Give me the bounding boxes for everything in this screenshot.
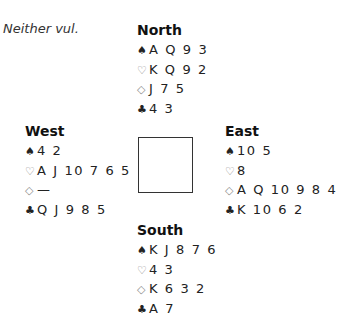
east-hearts-cards: 8 bbox=[237, 163, 247, 178]
north-clubs-cards: 4 3 bbox=[149, 101, 174, 116]
east-clubs: ♣K 10 6 2 bbox=[225, 200, 337, 220]
diamond-icon: ◇ bbox=[225, 181, 237, 201]
diamond-icon: ◇ bbox=[137, 80, 149, 100]
north-clubs: ♣4 3 bbox=[137, 99, 208, 119]
club-icon: ♣ bbox=[225, 201, 237, 221]
west-clubs: ♣Q J 9 8 5 bbox=[25, 200, 131, 220]
spade-icon: ♠ bbox=[137, 241, 149, 261]
diamond-icon: ◇ bbox=[137, 280, 149, 300]
west-hearts-cards: A J 10 7 6 5 bbox=[37, 163, 131, 178]
heart-icon: ♡ bbox=[137, 261, 149, 281]
west-title: West bbox=[25, 121, 131, 141]
vulnerability-label: Neither vul. bbox=[3, 21, 79, 36]
east-diamonds: ◇A Q 10 9 8 4 bbox=[225, 180, 337, 200]
east-spades: ♠10 5 bbox=[225, 141, 337, 161]
north-hearts: ♡K Q 9 2 bbox=[137, 60, 208, 80]
south-clubs-cards: A 7 bbox=[149, 301, 175, 316]
east-title: East bbox=[225, 121, 337, 141]
north-diamonds-cards: J 7 5 bbox=[149, 81, 186, 96]
east-hearts: ♡8 bbox=[225, 161, 337, 181]
east-hand: East ♠10 5 ♡8 ◇A Q 10 9 8 4 ♣K 10 6 2 bbox=[225, 121, 337, 219]
spade-icon: ♠ bbox=[225, 142, 237, 162]
south-hand: South ♠K J 8 7 6 ♡4 3 ◇K 6 3 2 ♣A 7 bbox=[137, 220, 217, 318]
west-hand: West ♠4 2 ♡A J 10 7 6 5 ◇— ♣Q J 9 8 5 bbox=[25, 121, 131, 219]
heart-icon: ♡ bbox=[137, 61, 149, 81]
south-spades: ♠K J 8 7 6 bbox=[137, 240, 217, 260]
south-hearts-cards: 4 3 bbox=[149, 262, 174, 277]
north-spades: ♠A Q 9 3 bbox=[137, 40, 208, 60]
west-diamonds-cards: — bbox=[37, 182, 52, 197]
east-diamonds-cards: A Q 10 9 8 4 bbox=[237, 182, 337, 197]
west-clubs-cards: Q J 9 8 5 bbox=[37, 202, 107, 217]
south-hearts: ♡4 3 bbox=[137, 260, 217, 280]
north-diamonds: ◇J 7 5 bbox=[137, 79, 208, 99]
north-hand: North ♠A Q 9 3 ♡K Q 9 2 ◇J 7 5 ♣4 3 bbox=[137, 20, 208, 118]
club-icon: ♣ bbox=[25, 201, 37, 221]
north-hearts-cards: K Q 9 2 bbox=[149, 62, 208, 77]
west-spades-cards: 4 2 bbox=[37, 143, 62, 158]
spade-icon: ♠ bbox=[25, 142, 37, 162]
south-diamonds-cards: K 6 3 2 bbox=[149, 281, 206, 296]
west-diamonds: ◇— bbox=[25, 180, 131, 200]
club-icon: ♣ bbox=[137, 100, 149, 120]
south-clubs: ♣A 7 bbox=[137, 299, 217, 319]
south-title: South bbox=[137, 220, 217, 240]
north-spades-cards: A Q 9 3 bbox=[149, 42, 208, 57]
south-diamonds: ◇K 6 3 2 bbox=[137, 279, 217, 299]
heart-icon: ♡ bbox=[225, 162, 237, 182]
spade-icon: ♠ bbox=[137, 41, 149, 61]
west-spades: ♠4 2 bbox=[25, 141, 131, 161]
south-spades-cards: K J 8 7 6 bbox=[149, 242, 217, 257]
east-clubs-cards: K 10 6 2 bbox=[237, 202, 304, 217]
west-hearts: ♡A J 10 7 6 5 bbox=[25, 161, 131, 181]
east-spades-cards: 10 5 bbox=[237, 143, 272, 158]
north-title: North bbox=[137, 20, 208, 40]
table-diagram-box bbox=[138, 137, 193, 193]
diamond-icon: ◇ bbox=[25, 181, 37, 201]
club-icon: ♣ bbox=[137, 300, 149, 320]
heart-icon: ♡ bbox=[25, 162, 37, 182]
